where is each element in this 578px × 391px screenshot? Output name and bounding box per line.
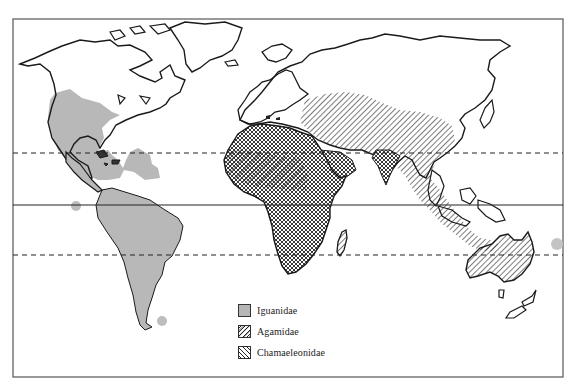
legend-item-iguanidae: Iguanidae [238, 300, 325, 321]
iguanidae-swatch-icon [238, 304, 251, 317]
chamaeleonidae-swatch-icon [238, 346, 251, 359]
legend-item-chamaeleonidae: Chamaeleonidae [238, 342, 325, 363]
iguanidae-falklands [157, 316, 167, 326]
agamidae-swatch-icon [238, 325, 251, 338]
legend-label: Agamidae [257, 326, 299, 337]
legend: Iguanidae Agamidae Chamaeleonidae [238, 300, 325, 363]
legend-label: Chamaeleonidae [257, 347, 325, 358]
iguanidae-fiji [551, 238, 563, 250]
legend-item-agamidae: Agamidae [238, 321, 325, 342]
legend-label: Iguanidae [257, 305, 297, 316]
iguanidae-galapagos [71, 201, 81, 211]
